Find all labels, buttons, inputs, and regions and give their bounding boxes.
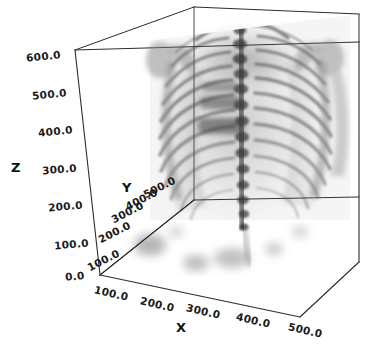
box-edge-floor-right [300,262,359,317]
plot-stage: 600.0 500.0 400.0 300.0 200.0 100.0 0.0 … [0,0,382,360]
z-axis-label: Z [11,160,20,175]
volume-plot-figure: 600.0 500.0 400.0 300.0 200.0 100.0 0.0 … [0,0,382,360]
y-axis-label: Y [122,180,131,195]
z-tick-0: 0.0 [65,269,85,283]
x-axis-label: X [176,320,186,335]
